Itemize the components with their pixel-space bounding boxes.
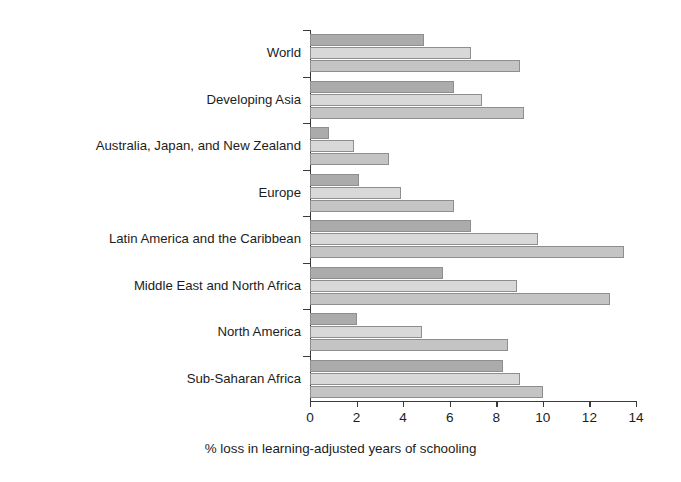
bar-row [310, 326, 636, 338]
bar-row [310, 127, 636, 139]
x-axis-tick [543, 401, 544, 407]
bar[interactable] [310, 94, 482, 106]
y-axis-tick [303, 263, 310, 264]
bar-row [310, 81, 636, 93]
bar-row [310, 246, 636, 258]
x-axis-title: % loss in learning-adjusted years of sch… [0, 440, 681, 457]
bar[interactable] [310, 140, 354, 152]
bar-row [310, 47, 636, 59]
bar[interactable] [310, 293, 610, 305]
bar-row [310, 94, 636, 106]
bar[interactable] [310, 267, 443, 279]
bar-group [310, 174, 636, 212]
bar[interactable] [310, 280, 517, 292]
y-axis-tick [303, 123, 310, 124]
bar-chart: WorldDeveloping AsiaAustralia, Japan, an… [0, 0, 681, 482]
x-axis-tick [450, 401, 451, 407]
category-label: Latin America and the Caribbean [10, 231, 310, 246]
y-axis-tick [303, 309, 310, 310]
bar[interactable] [310, 200, 454, 212]
y-axis-tick [303, 170, 310, 171]
bar-group [310, 313, 636, 351]
y-axis-tick [303, 356, 310, 357]
bar-row [310, 280, 636, 292]
bar[interactable] [310, 373, 520, 385]
bar-group [310, 81, 636, 119]
bar-group [310, 360, 636, 398]
bar[interactable] [310, 187, 401, 199]
x-axis-tick [636, 401, 637, 407]
bar-row [310, 107, 636, 119]
bar[interactable] [310, 386, 543, 398]
category-label: Australia, Japan, and New Zealand [10, 138, 310, 153]
bar[interactable] [310, 220, 471, 232]
bar[interactable] [310, 47, 471, 59]
category-label: World [10, 45, 310, 60]
bar-group [310, 220, 636, 258]
bar-row [310, 200, 636, 212]
x-axis-tick-label: 4 [399, 410, 407, 426]
bar-group [310, 127, 636, 165]
x-axis-tick-label: 14 [628, 410, 643, 426]
bar[interactable] [310, 233, 538, 245]
bar-row [310, 373, 636, 385]
bar[interactable] [310, 174, 359, 186]
x-axis-tick [403, 401, 404, 407]
bar[interactable] [310, 81, 454, 93]
bar-row [310, 60, 636, 72]
bar-row [310, 187, 636, 199]
x-axis-tick [310, 401, 311, 407]
bar-row [310, 220, 636, 232]
bar[interactable] [310, 326, 422, 338]
x-axis-tick-label: 6 [446, 410, 454, 426]
bar-group [310, 267, 636, 305]
plot-area [310, 30, 636, 402]
bar[interactable] [310, 34, 424, 46]
bar[interactable] [310, 60, 520, 72]
bar[interactable] [310, 153, 389, 165]
bar[interactable] [310, 339, 508, 351]
category-label: Middle East and North Africa [10, 278, 310, 293]
x-axis-tick-label: 2 [353, 410, 361, 426]
category-label: North America [10, 324, 310, 339]
x-axis-tick [589, 401, 590, 407]
bar-row [310, 267, 636, 279]
bar-row [310, 360, 636, 372]
bar-row [310, 233, 636, 245]
bar-row [310, 339, 636, 351]
bar[interactable] [310, 360, 503, 372]
bar[interactable] [310, 107, 524, 119]
bar-row [310, 293, 636, 305]
x-axis-tick-label: 8 [493, 410, 501, 426]
y-axis-tick [303, 216, 310, 217]
x-axis-tick [496, 401, 497, 407]
y-axis-tick [303, 30, 310, 31]
x-axis-tick-label: 10 [535, 410, 550, 426]
bar-row [310, 386, 636, 398]
bar[interactable] [310, 246, 624, 258]
category-label: Sub-Saharan Africa [10, 371, 310, 386]
bar-row [310, 34, 636, 46]
bar-group [310, 34, 636, 72]
x-axis-tick [357, 401, 358, 407]
category-label: Developing Asia [10, 92, 310, 107]
x-axis-tick-label: 12 [582, 410, 597, 426]
bar-row [310, 313, 636, 325]
y-axis-tick [303, 77, 310, 78]
category-label: Europe [10, 185, 310, 200]
bar[interactable] [310, 127, 329, 139]
bar-row [310, 174, 636, 186]
bar-row [310, 140, 636, 152]
bar-row [310, 153, 636, 165]
category-label-layer: WorldDeveloping AsiaAustralia, Japan, an… [0, 30, 310, 402]
x-axis-tick-label: 0 [306, 410, 314, 426]
bar[interactable] [310, 313, 357, 325]
